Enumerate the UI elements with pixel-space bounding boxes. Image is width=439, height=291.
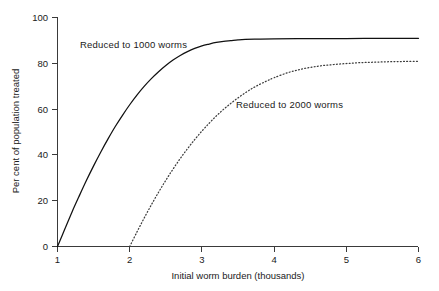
y-tick-label-20: 20 xyxy=(37,195,48,206)
y-axis-title: Per cent of population treated xyxy=(10,69,21,194)
chart-figure: 0 20 40 60 80 100 1 2 3 4 5 6 Initial wo… xyxy=(0,0,439,291)
annotation-label-2000-worms: Reduced to 2000 worms xyxy=(236,99,343,110)
y-axis-ticks xyxy=(52,18,58,247)
x-tick-label-3: 3 xyxy=(199,254,204,265)
x-axis-ticks xyxy=(58,247,419,253)
y-tick-label-60: 60 xyxy=(37,104,48,115)
x-tick-label-5: 5 xyxy=(344,254,349,265)
x-tick-label-1: 1 xyxy=(55,254,60,265)
x-axis-title: Initial worm burden (thousands) xyxy=(171,270,304,281)
y-tick-label-80: 80 xyxy=(37,58,48,69)
annotation-label-1000-worms: Reduced to 1000 worms xyxy=(80,39,187,50)
x-axis-tick-labels: 1 2 3 4 5 6 xyxy=(55,254,421,265)
series-line-reduced-2000 xyxy=(130,61,419,246)
x-tick-label-4: 4 xyxy=(271,254,276,265)
y-tick-label-100: 100 xyxy=(32,12,48,23)
x-tick-label-2: 2 xyxy=(127,254,132,265)
y-axis-tick-labels: 0 20 40 60 80 100 xyxy=(32,12,48,252)
x-tick-label-6: 6 xyxy=(416,254,421,265)
series-line-reduced-1000 xyxy=(58,38,419,246)
y-tick-label-0: 0 xyxy=(43,241,48,252)
chart-canvas: 0 20 40 60 80 100 1 2 3 4 5 6 Initial wo… xyxy=(0,0,439,291)
y-tick-label-40: 40 xyxy=(37,149,48,160)
